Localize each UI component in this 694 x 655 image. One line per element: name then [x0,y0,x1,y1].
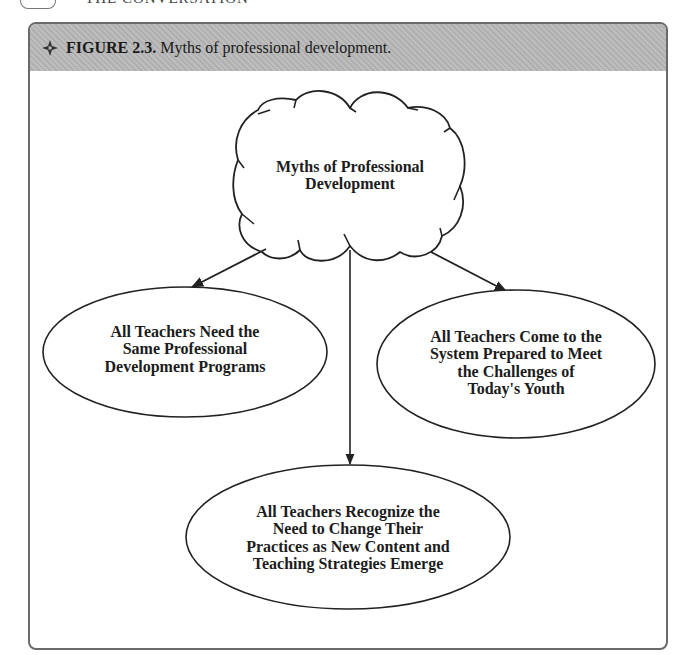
node-recognize-need-label: All Teachers Recognize the Need to Chang… [200,503,496,572]
edge-to-prepared [431,252,506,291]
cloud-label: Myths of Professional Development [250,158,450,193]
node-prepared-label: All Teachers Come to the System Prepared… [390,328,642,397]
node-same-programs-label: All Teachers Need the Same Professional … [60,323,310,375]
edge-to-same-programs [192,249,266,287]
